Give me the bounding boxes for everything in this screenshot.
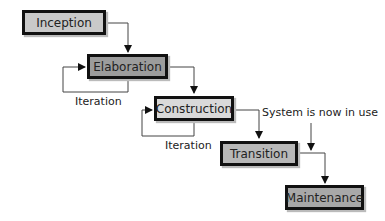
phase-transition: Transition: [220, 141, 298, 166]
phase-label: Inception: [36, 16, 92, 30]
phase-label: Maintenance: [286, 191, 363, 205]
iteration-label-elaboration: Iteration: [75, 95, 122, 108]
phase-inception: Inception: [22, 10, 106, 35]
annotation-system-in-use: System is now in use: [262, 106, 378, 119]
phase-label: Elaboration: [93, 60, 162, 74]
phase-elaboration: Elaboration: [87, 54, 168, 79]
arrow-inception-elaboration: [105, 23, 128, 52]
arrow-construction-transition: [233, 110, 259, 138]
iteration-label-construction: Iteration: [165, 139, 212, 152]
phase-label: Transition: [230, 147, 288, 161]
phase-construction: Construction: [154, 96, 234, 121]
phase-label: Construction: [156, 102, 232, 116]
phase-maintenance: Maintenance: [285, 185, 364, 210]
arrow-transition-maintenance: [297, 153, 325, 183]
arrow-elaboration-construction: [167, 67, 194, 93]
